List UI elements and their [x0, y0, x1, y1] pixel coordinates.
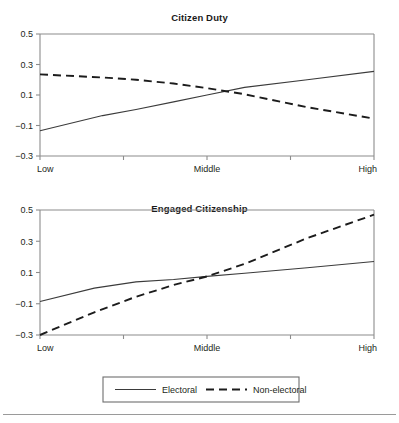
plot-area-citizen-duty: 0.50.30.1−0.1−0.3LowMiddleHigh — [0, 0, 399, 190]
x-tick-label: High — [358, 343, 377, 353]
x-tick-label: Low — [37, 343, 54, 353]
legend-label-electoral: Electoral — [162, 385, 197, 395]
y-tick-label: −0.3 — [15, 151, 33, 161]
y-tick-label: 0.5 — [20, 29, 33, 39]
x-tick-label: Middle — [194, 343, 221, 353]
figure-container: Citizen Duty 0.50.30.1−0.1−0.3LowMiddleH… — [0, 0, 399, 423]
y-tick-label: −0.1 — [15, 121, 33, 131]
x-tick-label: High — [358, 164, 377, 174]
series-line-non-electoral — [40, 74, 374, 118]
y-tick-label: 0.3 — [20, 60, 33, 70]
plot-area-engaged-citizenship: 0.50.30.1−0.1−0.3LowMiddleHigh — [0, 190, 399, 375]
y-tick-label: 0.5 — [20, 205, 33, 215]
chart-panel-engaged-citizenship: Engaged Citizenship 0.50.30.1−0.1−0.3Low… — [0, 190, 399, 375]
legend-label-non-electoral: Non-electoral — [253, 385, 307, 395]
x-tick-label: Low — [37, 164, 54, 174]
y-tick-label: −0.3 — [15, 330, 33, 340]
footer-divider — [3, 414, 396, 415]
y-tick-label: 0.1 — [20, 90, 33, 100]
y-tick-label: 0.3 — [20, 237, 33, 247]
y-tick-label: −0.1 — [15, 299, 33, 309]
series-line-non-electoral — [40, 215, 374, 335]
chart-legend: ElectoralNon-electoral — [0, 372, 399, 414]
y-tick-label: 0.1 — [20, 268, 33, 278]
series-line-electoral — [40, 262, 374, 302]
chart-panel-citizen-duty: Citizen Duty 0.50.30.1−0.1−0.3LowMiddleH… — [0, 0, 399, 190]
x-tick-label: Middle — [194, 164, 221, 174]
series-line-electoral — [40, 71, 374, 130]
